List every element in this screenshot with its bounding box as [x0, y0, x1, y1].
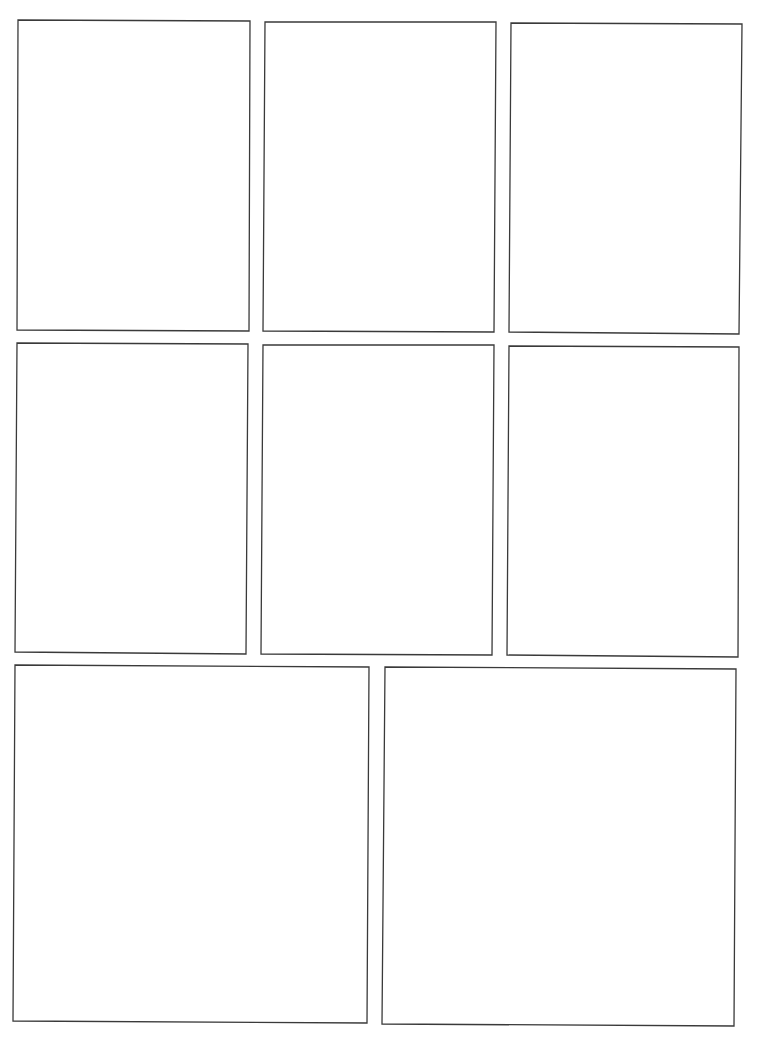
comic-page — [0, 0, 768, 1052]
panel-row-1 — [17, 20, 742, 334]
panel-2[interactable] — [263, 22, 496, 332]
panel-5[interactable] — [261, 345, 494, 655]
panel-7[interactable] — [13, 665, 369, 1023]
panel-row-3 — [13, 665, 736, 1026]
panel-row-2 — [15, 343, 739, 657]
panel-1[interactable] — [17, 20, 250, 331]
panel-4[interactable] — [15, 343, 248, 654]
panel-3[interactable] — [509, 23, 742, 334]
panel-6[interactable] — [507, 346, 739, 657]
panel-8[interactable] — [382, 667, 736, 1026]
